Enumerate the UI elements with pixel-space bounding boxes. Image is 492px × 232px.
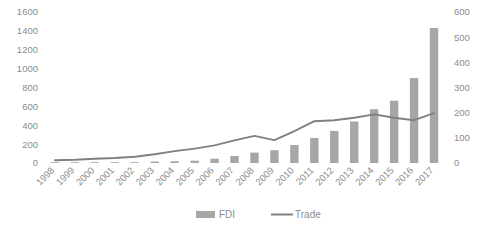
legend-label-trade: Trade — [295, 209, 321, 220]
legend-label-fdi: FDI — [219, 209, 235, 220]
bar-2013 — [350, 121, 358, 163]
right-axis-tick: 400 — [454, 57, 470, 68]
bar-1998 — [51, 162, 59, 163]
category-axis-labels: 1998199920002001200220032004200520062007… — [34, 165, 436, 188]
right-axis-tick: 0 — [454, 157, 459, 168]
bar-2006 — [210, 159, 218, 163]
right-axis-tick: 200 — [454, 107, 470, 118]
category-label-2004: 2004 — [153, 165, 176, 188]
category-label-2010: 2010 — [273, 165, 296, 188]
bar-2007 — [230, 156, 238, 163]
bar-2017 — [430, 28, 438, 163]
bar-2001 — [111, 162, 119, 163]
bar-2015 — [390, 101, 398, 163]
bar-2009 — [270, 150, 278, 163]
right-axis-tick: 100 — [454, 132, 470, 143]
left-axis-tick: 1400 — [17, 25, 38, 36]
left-axis-tick: 200 — [22, 139, 38, 150]
bar-1999 — [71, 162, 79, 163]
dual-axis-chart: 02004006008001000120014001600 0100200300… — [0, 0, 492, 232]
category-label-2009: 2009 — [253, 165, 276, 188]
left-axis-tick: 1600 — [17, 6, 38, 17]
category-label-1999: 1999 — [54, 165, 77, 188]
bar-2008 — [250, 153, 258, 163]
category-label-2000: 2000 — [74, 165, 97, 188]
category-label-2001: 2001 — [94, 165, 117, 188]
chart-legend: FDITrade — [196, 209, 321, 220]
chart-container: 02004006008001000120014001600 0100200300… — [0, 0, 492, 232]
bar-2004 — [170, 161, 178, 163]
bar-2010 — [290, 145, 298, 163]
category-label-2008: 2008 — [233, 165, 256, 188]
category-label-2011: 2011 — [294, 165, 316, 187]
category-label-2015: 2015 — [373, 165, 396, 188]
category-label-2005: 2005 — [173, 165, 196, 188]
category-label-2003: 2003 — [133, 165, 156, 188]
category-label-2002: 2002 — [113, 165, 136, 188]
left-axis-tick: 0 — [33, 157, 38, 168]
bar-2014 — [370, 109, 378, 163]
right-axis-tick-labels: 0100200300400500600 — [454, 6, 470, 168]
bar-2002 — [131, 162, 139, 163]
category-label-2014: 2014 — [353, 165, 376, 188]
category-label-2016: 2016 — [393, 165, 416, 188]
category-label-2012: 2012 — [313, 165, 336, 188]
left-axis-tick: 400 — [22, 120, 38, 131]
left-axis-tick-labels: 02004006008001000120014001600 — [17, 6, 38, 168]
bar-2012 — [330, 131, 338, 163]
right-axis-tick: 300 — [454, 82, 470, 93]
legend-swatch-fdi — [196, 211, 215, 218]
left-axis-tick: 1200 — [17, 44, 38, 55]
bar-2003 — [151, 162, 159, 163]
category-label-2007: 2007 — [213, 165, 236, 188]
left-axis-tick: 800 — [22, 82, 38, 93]
left-axis-tick: 1000 — [17, 63, 38, 74]
right-axis-tick: 600 — [454, 6, 470, 17]
bar-2000 — [91, 162, 99, 163]
category-label-2006: 2006 — [193, 165, 216, 188]
left-axis-tick: 600 — [22, 101, 38, 112]
category-label-2013: 2013 — [333, 165, 356, 188]
category-label-2017: 2017 — [413, 165, 436, 188]
fdi-bar-series — [51, 28, 438, 163]
right-axis-tick: 500 — [454, 32, 470, 43]
bar-2005 — [190, 161, 198, 163]
bar-2011 — [310, 138, 318, 163]
